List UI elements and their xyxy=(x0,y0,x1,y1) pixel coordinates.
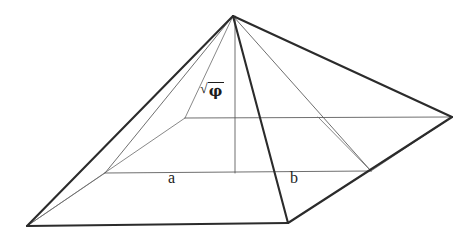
radical-sign-icon: √ xyxy=(200,82,208,96)
base-midline-horizontal xyxy=(105,171,371,173)
left-corner-to-left-midpoint xyxy=(27,173,105,226)
pyramid-drawing xyxy=(0,0,474,243)
apex-to-right-corner-edge xyxy=(233,16,452,117)
label-base-half-a: a xyxy=(168,170,175,186)
apex-to-left-corner-edge xyxy=(27,16,233,226)
label-phi: φ xyxy=(208,82,225,99)
back-mid-to-right-midpoint xyxy=(318,117,371,171)
label-slant-b: b xyxy=(290,170,298,186)
apex-to-back-corner-edge xyxy=(185,16,233,118)
pyramid-diagram: a b √ φ xyxy=(0,0,474,243)
base-edge-left-to-front xyxy=(27,223,288,226)
label-height-sqrt-phi: √ φ xyxy=(200,82,224,99)
base-edge-front-to-right xyxy=(288,117,452,223)
